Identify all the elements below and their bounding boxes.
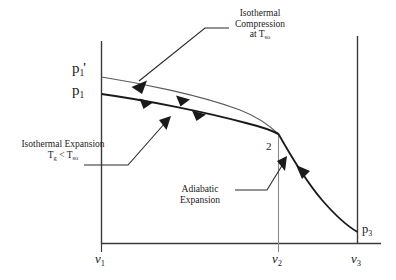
axis-tick-v2-base: v bbox=[272, 251, 278, 266]
axis-tick-v1-sub: 1 bbox=[101, 258, 105, 268]
axis-tick-v2-sub: 2 bbox=[278, 258, 282, 268]
annotation-isothermal-compression-line2: Compression bbox=[221, 19, 299, 30]
annotation-temp-gas-sub: g bbox=[54, 154, 57, 161]
annotation-isothermal-expansion: Isothermal Expansion Tg < Tso bbox=[8, 139, 118, 160]
pressure-volume-diagram: p1' p1 p3 v1 v2 v3 2 Isothermal Compress… bbox=[0, 0, 396, 280]
label-p1-base: p bbox=[72, 82, 80, 98]
axis-tick-v3-sub: 3 bbox=[357, 258, 361, 268]
label-point-2: 2 bbox=[266, 140, 272, 152]
annotation-isothermal-compression-line3: at Tso bbox=[221, 29, 299, 40]
axis-tick-v1-base: v bbox=[95, 251, 101, 266]
annotation-adiabatic-expansion-line2: Expansion bbox=[168, 195, 232, 206]
axis-tick-v3-base: v bbox=[351, 251, 357, 266]
label-p3: p3 bbox=[362, 222, 372, 236]
arrowhead-isothermal-expansion-1 bbox=[140, 99, 154, 110]
arrowhead-isothermal-compression bbox=[176, 96, 190, 107]
axis-tick-label-v1: v1 bbox=[95, 252, 105, 267]
leader-isothermal-compression bbox=[139, 28, 229, 81]
annotation-isothermal-compression: Isothermal Compression at Tso bbox=[221, 8, 299, 40]
annotation-temp-iso-sub: so bbox=[73, 154, 79, 161]
annotation-isothermal-compression-line3-prefix: at T bbox=[250, 29, 265, 39]
leader-adiabatic-expansion bbox=[235, 164, 283, 190]
axis-tick-label-v3: v3 bbox=[351, 252, 361, 267]
label-p1-sub: 1 bbox=[80, 90, 85, 100]
annotation-adiabatic-expansion: Adiabatic Expansion bbox=[168, 184, 232, 205]
arrowhead-adiabatic-expansion bbox=[296, 165, 310, 179]
annotation-temp-op: < T bbox=[57, 150, 73, 160]
label-p3-sub: 3 bbox=[368, 229, 372, 238]
label-p1-prime-mark: ' bbox=[83, 60, 86, 76]
label-p1: p1 bbox=[72, 82, 84, 99]
annotation-isothermal-compression-line1: Isothermal bbox=[221, 8, 299, 19]
curve-adiabatic-expansion bbox=[279, 134, 358, 232]
annotation-isothermal-compression-line3-sub: so bbox=[265, 33, 271, 40]
axis-tick-label-v2: v2 bbox=[272, 252, 282, 267]
label-p1-prime-base: p bbox=[72, 60, 80, 76]
annotation-isothermal-expansion-line2: Tg < Tso bbox=[8, 150, 118, 161]
annotation-adiabatic-expansion-line1: Adiabatic bbox=[168, 184, 232, 195]
curve-isothermal-expansion bbox=[102, 94, 279, 134]
annotation-temp-gas: T bbox=[48, 150, 54, 160]
annotation-isothermal-expansion-line1: Isothermal Expansion bbox=[8, 139, 118, 150]
label-p1-prime: p1' bbox=[72, 60, 87, 77]
